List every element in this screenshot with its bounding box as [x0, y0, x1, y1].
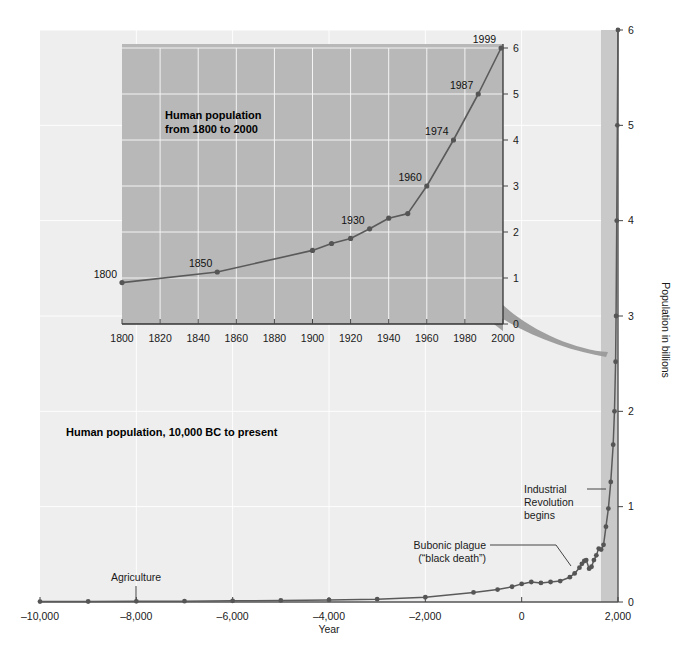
data-point [612, 409, 617, 414]
inset-title-line2: from 1800 to 2000 [165, 123, 258, 135]
data-point [471, 590, 476, 595]
y-tick-label: 4 [513, 134, 519, 146]
x-tick-label: 0 [519, 610, 525, 622]
inset-point-label: 1930 [341, 214, 365, 226]
main-y-axis-title: Population in billions [660, 282, 672, 378]
data-point [606, 506, 611, 511]
x-tick-label: 1920 [339, 332, 363, 344]
x-tick-label: 1880 [263, 332, 287, 344]
data-point [510, 584, 515, 589]
data-point [423, 595, 428, 600]
data-point [601, 542, 606, 547]
data-point [375, 597, 380, 602]
x-tick-label: 2000 [491, 332, 515, 344]
inset-point-label: 1987 [450, 79, 474, 91]
data-point [589, 564, 594, 569]
x-tick-label: –10,000 [21, 610, 59, 622]
inset-x-tick-labels: 1800182018401860188019001920194019601980… [110, 332, 515, 344]
data-point [572, 571, 577, 576]
data-point [592, 558, 597, 563]
plague-label-line1: Bubonic plague [414, 539, 487, 551]
data-point [613, 359, 618, 364]
x-tick-label: 1940 [377, 332, 401, 344]
data-point [348, 236, 353, 241]
x-tick-label: 1820 [148, 332, 172, 344]
data-point [451, 137, 456, 142]
population-growth-figure: –10,000–8,000–6,000–4,000–2,00002,000 01… [0, 0, 689, 660]
data-point [38, 599, 43, 604]
x-tick-label: 1840 [187, 332, 211, 344]
inset-chart: 1800182018401860188019001920194019601980… [94, 33, 519, 344]
y-tick-label: 6 [628, 24, 634, 36]
x-tick-label: 2,000 [605, 610, 631, 622]
data-point [614, 314, 619, 319]
x-tick-label: 1800 [110, 332, 134, 344]
x-tick-label: 1980 [453, 332, 477, 344]
y-tick-label: 4 [628, 214, 634, 226]
inset-point-label: 1999 [473, 33, 497, 45]
data-point [558, 579, 563, 584]
inset-point-label: 1974 [425, 125, 449, 137]
x-tick-label: –6,000 [217, 610, 249, 622]
x-tick-label: –2,000 [409, 610, 441, 622]
inset-title-line1: Human population [165, 109, 262, 121]
y-tick-label: 1 [628, 500, 634, 512]
data-point [310, 248, 315, 253]
data-point [278, 598, 283, 603]
data-point [215, 269, 220, 274]
data-point [611, 442, 616, 447]
data-point [608, 479, 613, 484]
industrial-label-line2: Revolution [524, 496, 574, 508]
y-tick-label: 0 [513, 318, 519, 330]
data-point [599, 547, 604, 552]
y-tick-label: 5 [628, 119, 634, 131]
data-point [614, 218, 619, 223]
data-point [476, 91, 481, 96]
x-tick-label: –4,000 [313, 610, 345, 622]
data-point [539, 581, 544, 586]
data-point [230, 598, 235, 603]
main-x-axis-title: Year [318, 623, 340, 635]
industrial-label-line1: Industrial [524, 483, 567, 495]
y-tick-label: 6 [513, 42, 519, 54]
data-point [182, 599, 187, 604]
data-point [498, 45, 503, 50]
inset-point-label: 1960 [398, 171, 422, 183]
y-tick-label: 5 [513, 88, 519, 100]
main-chart-title: Human population, 10,000 BC to present [66, 426, 278, 438]
y-tick-label: 2 [628, 405, 634, 417]
data-point [616, 28, 621, 33]
data-point [615, 123, 620, 128]
x-tick-label: 1860 [225, 332, 249, 344]
y-tick-label: 2 [513, 226, 519, 238]
agriculture-label: Agriculture [111, 571, 161, 583]
data-point [405, 211, 410, 216]
inset-point-label: 1850 [189, 257, 213, 269]
data-point [86, 599, 91, 604]
data-point [519, 581, 524, 586]
industrial-label-line3: begins [524, 509, 555, 521]
data-point [424, 183, 429, 188]
y-tick-label: 3 [628, 310, 634, 322]
plague-label-line2: (“black death”) [418, 552, 486, 564]
data-point [594, 553, 599, 558]
inset-point-label: 1800 [94, 268, 118, 280]
x-tick-label: 1960 [415, 332, 439, 344]
data-point [584, 558, 589, 563]
data-point [495, 587, 500, 592]
y-tick-label: 1 [513, 272, 519, 284]
data-point [604, 524, 609, 529]
data-point [119, 280, 124, 285]
data-point [329, 241, 334, 246]
data-point [367, 226, 372, 231]
y-tick-label: 3 [513, 180, 519, 192]
x-tick-label: 1900 [301, 332, 325, 344]
data-point [567, 575, 572, 580]
y-tick-label: 0 [628, 596, 634, 608]
figure-canvas: –10,000–8,000–6,000–4,000–2,00002,000 01… [0, 0, 689, 660]
data-point [548, 580, 553, 585]
data-point [327, 598, 332, 603]
data-point [386, 216, 391, 221]
data-point [529, 580, 534, 585]
x-tick-label: –8,000 [120, 610, 152, 622]
